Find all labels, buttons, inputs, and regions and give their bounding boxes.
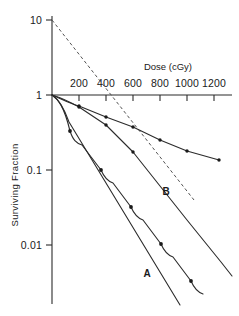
x-tick-labels: 200 400 600 800 1000 1200 <box>70 77 226 89</box>
series-curve-A <box>52 95 180 305</box>
x-tick-label-1000: 1000 <box>175 77 199 89</box>
survival-curve-plot: 10 1 0.1 0.01 200 400 600 800 1000 1200 … <box>0 0 239 316</box>
data-point <box>77 105 80 108</box>
data-point <box>217 158 220 161</box>
data-point <box>68 129 72 133</box>
curve-B-line <box>52 95 232 276</box>
extrapolation-dashed-line <box>52 20 194 200</box>
data-point <box>189 279 193 283</box>
series-curve-B <box>52 95 232 276</box>
x-tick-label-600: 600 <box>124 77 142 89</box>
chart-figure: 10 1 0.1 0.01 200 400 600 800 1000 1200 … <box>0 0 239 316</box>
data-point <box>131 125 134 128</box>
y-tick-labels: 10 1 0.1 0.01 <box>21 14 42 251</box>
y-tick-label-0p1: 0.1 <box>27 164 42 176</box>
curve-label-A: A <box>143 268 150 279</box>
y-axis-ticks <box>46 20 52 245</box>
data-point <box>159 242 163 246</box>
data-point <box>185 149 188 152</box>
data-point <box>129 205 133 209</box>
x-tick-label-200: 200 <box>70 77 88 89</box>
data-point <box>104 123 107 126</box>
y-tick-label-10: 10 <box>30 14 42 26</box>
y-tick-label-0p01: 0.01 <box>21 239 42 251</box>
x-tick-label-800: 800 <box>151 77 169 89</box>
x-tick-label-400: 400 <box>97 77 115 89</box>
shallow-resistant-line <box>52 95 219 160</box>
x-tick-label-1200: 1200 <box>202 77 226 89</box>
x-axis-title: Dose (cGy) <box>144 61 192 72</box>
y-tick-label-1: 1 <box>36 89 42 101</box>
data-point <box>104 115 107 118</box>
curve-A-line <box>52 95 180 305</box>
data-point <box>99 168 103 172</box>
y-axis-title: Surviving Fraction <box>9 143 20 226</box>
data-point <box>131 150 134 153</box>
series-shallow-resistant <box>52 95 221 162</box>
data-point <box>158 138 161 141</box>
axes-group <box>52 16 232 304</box>
x-axis-ticks <box>79 95 214 101</box>
curve-label-B: B <box>162 186 169 197</box>
